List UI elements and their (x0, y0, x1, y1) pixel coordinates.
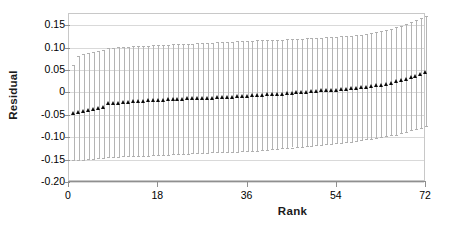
error-bar-cap (152, 45, 155, 46)
error-bar-cap (122, 47, 125, 48)
y-tick-label: 0 (59, 85, 65, 97)
error-bar-cap (177, 44, 180, 45)
x-tick-label: 0 (65, 189, 71, 201)
error-bar-cap (340, 143, 343, 144)
data-point-marker (399, 78, 403, 82)
error-bar-cap (405, 132, 408, 133)
error-bar-cap (216, 152, 219, 153)
error-bar-cap (127, 156, 130, 157)
error-bar-cap (301, 147, 304, 148)
x-axis-title: Rank (0, 205, 449, 217)
x-tick-mark (157, 181, 158, 187)
data-point-marker (270, 92, 274, 96)
data-point-marker (285, 91, 289, 95)
error-bar-cap (221, 42, 224, 43)
error-bar (89, 53, 90, 159)
data-point-marker (324, 88, 328, 92)
data-point-marker (299, 90, 303, 94)
data-point-marker (111, 101, 115, 105)
data-point-marker (309, 89, 313, 93)
error-bar-cap (296, 39, 299, 40)
error-bar-cap (395, 27, 398, 28)
error-bar-cap (236, 41, 239, 42)
data-point-marker (314, 89, 318, 93)
error-bar-cap (191, 153, 194, 154)
error-bar-cap (72, 160, 75, 161)
error-bar-cap (77, 160, 80, 161)
data-point-marker (116, 101, 120, 105)
error-bar-cap (325, 144, 328, 145)
error-bar-cap (147, 156, 150, 157)
error-bar-cap (226, 152, 229, 153)
error-bar-cap (112, 157, 115, 158)
error-bar-cap (276, 40, 279, 41)
error-bar-cap (286, 39, 289, 40)
data-point-marker (146, 98, 150, 102)
data-point-marker (275, 92, 279, 96)
error-bar-cap (206, 43, 209, 44)
error-bar-cap (415, 20, 418, 21)
error-bar-cap (97, 158, 100, 159)
data-point-marker (91, 107, 95, 111)
data-point-marker (374, 83, 378, 87)
data-point-marker (384, 82, 388, 86)
data-point-marker (404, 77, 408, 81)
data-point-marker (339, 87, 343, 91)
data-point-marker (394, 79, 398, 83)
series-layer (69, 14, 424, 180)
error-bar-cap (87, 159, 90, 160)
error-bar-cap (291, 148, 294, 149)
error-bar-cap (102, 158, 105, 159)
data-point-marker (71, 111, 75, 115)
error-bar-cap (256, 40, 259, 41)
error-bar-cap (241, 41, 244, 42)
error-bar-cap (315, 38, 318, 39)
data-point-marker (171, 97, 175, 101)
data-point-marker (409, 75, 413, 79)
error-bar-cap (162, 155, 165, 156)
data-point-marker (349, 86, 353, 90)
data-point-marker (389, 81, 393, 85)
error-bar-cap (167, 45, 170, 46)
error-bar-cap (330, 37, 333, 38)
error-bar-cap (177, 154, 180, 155)
data-point-marker (334, 88, 338, 92)
error-bar-cap (370, 33, 373, 34)
data-point-marker (260, 93, 264, 97)
error-bar-cap (420, 128, 423, 129)
error-bar-cap (276, 149, 279, 150)
error-bar-cap (271, 149, 274, 150)
y-tick-label: -0.05 (41, 108, 65, 120)
error-bar-cap (137, 156, 140, 157)
data-point-marker (161, 98, 165, 102)
y-gridline (69, 160, 424, 161)
error-bar-cap (251, 41, 254, 42)
error-bar-cap (142, 46, 145, 47)
data-point-marker (280, 92, 284, 96)
error-bar-cap (82, 54, 85, 55)
error-bar-cap (182, 154, 185, 155)
error-bar-cap (236, 152, 239, 153)
data-point-marker (319, 88, 323, 92)
data-point-marker (76, 110, 80, 114)
error-bar-cap (425, 126, 428, 127)
data-point-marker (265, 92, 269, 96)
data-point-marker (180, 97, 184, 101)
data-point-marker (250, 93, 254, 97)
error-bar-cap (147, 46, 150, 47)
y-tick-label: -0.10 (41, 130, 65, 142)
error-bar-cap (310, 146, 313, 147)
data-point-marker (290, 91, 294, 95)
data-point-marker (106, 101, 110, 105)
error-bar-cap (117, 47, 120, 48)
error-bar-cap (231, 42, 234, 43)
data-point-marker (418, 72, 422, 76)
error-bar-cap (350, 36, 353, 37)
error-bar-cap (325, 37, 328, 38)
data-point-marker (329, 88, 333, 92)
error-bar-cap (385, 136, 388, 137)
error-bar-cap (261, 150, 264, 151)
data-point-marker (215, 95, 219, 99)
data-point-marker (151, 98, 155, 102)
error-bar-cap (266, 150, 269, 151)
